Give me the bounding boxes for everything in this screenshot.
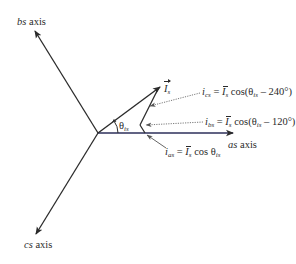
cs-axis-label: cs axis (24, 240, 52, 251)
ias-equation: ias = Is cos θis (165, 147, 221, 159)
as-leader (147, 135, 166, 148)
cs-axis-line (36, 133, 98, 234)
bs-component-line (140, 125, 145, 133)
bs-axis-line (35, 31, 98, 133)
ibs-equation: ibs = Is cos(θis – 120°) (205, 117, 295, 129)
theta-label: θis (119, 121, 129, 133)
bs-leader (146, 122, 203, 125)
is-vector-label: Is (164, 84, 170, 96)
as-axis-label: as axis (228, 140, 257, 151)
space-vector-diagram (0, 0, 296, 264)
theta-arc (114, 121, 118, 133)
cs-leader (150, 93, 200, 106)
bs-axis-label: bs axis (17, 17, 46, 28)
is-vector-line (98, 87, 160, 133)
ics-equation: ics = Is cos(θis – 240°) (202, 87, 292, 99)
